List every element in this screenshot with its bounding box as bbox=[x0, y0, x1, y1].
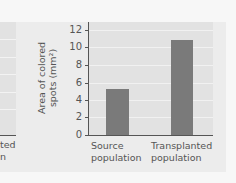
bar-source-population bbox=[106, 89, 129, 135]
y-axis-title-line-1: Area of colored bbox=[36, 23, 47, 133]
left-panel-x-axis bbox=[0, 135, 16, 136]
x-tick-label-line-2: population bbox=[91, 152, 142, 164]
x-tick-label-line-1: Source bbox=[91, 140, 142, 152]
bar-transplanted-population bbox=[171, 40, 193, 135]
y-axis-title-line-2: spots (mm²) bbox=[47, 23, 58, 133]
y-tick-label: 10 bbox=[66, 42, 82, 52]
x-tick-label-line-2: population bbox=[151, 152, 212, 164]
y-tick-label: 12 bbox=[66, 25, 82, 35]
y-axis-title: Area of colored spots (mm²) bbox=[36, 23, 58, 133]
y-tick-label: 4 bbox=[66, 95, 82, 105]
y-tick-label: 8 bbox=[66, 60, 82, 70]
left-panel-label-line-1: ted bbox=[0, 139, 16, 151]
y-tick-label: 2 bbox=[66, 112, 82, 122]
left-panel-label-line-2: n bbox=[0, 151, 6, 163]
x-tick-label-line-1: Transplanted bbox=[151, 140, 212, 152]
x-axis bbox=[88, 135, 213, 136]
y-tick-label: 0 bbox=[66, 130, 82, 140]
x-tick-label-transplanted: Transplanted population bbox=[151, 140, 212, 164]
left-panel-plot-area bbox=[0, 22, 16, 135]
x-tick-label-source: Source population bbox=[91, 140, 142, 164]
y-tick-label: 6 bbox=[66, 78, 82, 88]
y-axis bbox=[88, 22, 89, 136]
